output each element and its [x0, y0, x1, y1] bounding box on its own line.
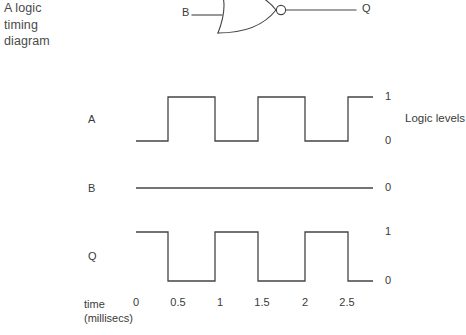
- time-tick-4: 2: [291, 296, 319, 308]
- time-tick-5: 2.5: [333, 296, 361, 308]
- waveform-q: [136, 232, 373, 281]
- time-tick-0: 0: [122, 296, 150, 308]
- level-label-a-high: 1: [385, 90, 391, 102]
- time-axis-label-line2: (millisecs): [84, 312, 133, 324]
- row-label-b: B: [88, 182, 95, 194]
- timing-diagram-page: A logic timing diagram B Q: [0, 0, 466, 335]
- level-label-q-low: 0: [385, 274, 391, 286]
- waveforms-svg: [60, 70, 466, 300]
- gate-back-arc: [218, 0, 224, 33]
- level-label-a-low: 0: [385, 134, 391, 146]
- nor-gate-circuit: B Q: [150, 0, 410, 40]
- gate-top-arc: [218, 0, 276, 10]
- level-label-q-high: 1: [385, 225, 391, 237]
- waveform-a: [136, 97, 373, 141]
- caption-line-2: timing: [4, 17, 84, 34]
- input-b-label: B: [182, 6, 189, 18]
- logic-levels-caption: Logic levels: [405, 112, 465, 124]
- inversion-bubble: [276, 5, 285, 14]
- row-label-a: A: [88, 113, 95, 125]
- time-axis-label-line1: time: [84, 298, 105, 310]
- row-label-q: Q: [88, 250, 97, 262]
- caption-line-3: diagram: [4, 33, 84, 50]
- caption-line-1: A logic: [4, 0, 84, 17]
- output-q-label: Q: [362, 2, 371, 14]
- level-label-b-low: 0: [385, 181, 391, 193]
- timing-waveforms: A B Q 1 0 0 1 0 Logic levels time (milli…: [60, 70, 466, 335]
- time-tick-3: 1.5: [248, 296, 276, 308]
- gate-bottom-arc: [218, 10, 276, 33]
- figure-caption: A logic timing diagram: [4, 0, 84, 50]
- time-tick-1: 0.5: [164, 296, 192, 308]
- time-tick-2: 1: [206, 296, 234, 308]
